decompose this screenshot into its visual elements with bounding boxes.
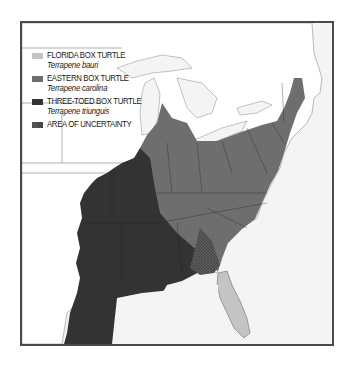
map-frame: FLORIDA BOX TURTLE Terrapene bauri EASTE… (20, 21, 334, 346)
swatch-three-toed (32, 99, 43, 105)
legend-item-florida: FLORIDA BOX TURTLE Terrapene bauri (32, 50, 172, 70)
swatch-eastern (32, 76, 43, 82)
swatch-florida (32, 53, 43, 59)
legend: FLORIDA BOX TURTLE Terrapene bauri EASTE… (32, 50, 172, 132)
legend-scientific-name: Terrapene bauri (47, 60, 125, 70)
legend-scientific-name: Terrapene triunguis (47, 106, 141, 116)
legend-item-three-toed: THREE-TOED BOX TURTLE Terrapene triungui… (32, 96, 172, 116)
swatch-uncertainty (32, 122, 43, 128)
legend-scientific-name: Terrapene carolina (47, 83, 129, 93)
legend-common-name: AREA OF UNCERTAINTY (47, 119, 131, 129)
legend-item-uncertainty: AREA OF UNCERTAINTY (32, 119, 172, 129)
range-florida-box-turtle (217, 271, 250, 338)
legend-item-eastern: EASTERN BOX TURTLE Terrapene carolina (32, 73, 172, 93)
